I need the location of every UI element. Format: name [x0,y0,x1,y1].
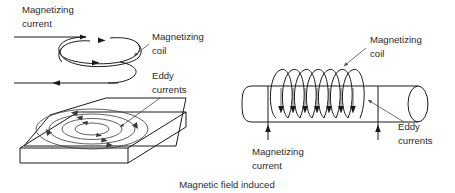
right-magnetizing-coil-label-line2: coil [370,48,384,59]
left-magnetizing-coil-label-line1: Magnetizing [152,31,204,42]
left-magnetizing-coil-label-line2: coil [152,45,166,56]
left-bottom-lead-wire [14,80,118,85]
eddy-current-diagram: Magnetizing current Magnetizing coil Edd… [0,0,455,193]
left-magnetizing-coil [59,37,142,83]
right-eddy-leader-line [368,100,404,122]
left-magnetizing-current-label-line2: current [22,18,52,29]
diagram-canvas: Magnetizing current Magnetizing coil Edd… [0,0,455,193]
right-magnetizing-coil-label-line1: Magnetizing [370,34,422,45]
left-test-plate [20,98,186,163]
left-eddy-current-rings [36,109,148,149]
right-eddy-currents-label-line1: Eddy [398,121,420,132]
left-coil-leader-line [134,44,149,56]
right-magnetizing-current-label-line1: Magnetizing [252,146,304,157]
right-eddy-currents-label-line2: currents [398,135,433,146]
right-magnetizing-current-label-line2: current [252,160,282,171]
figure-caption: Magnetic field induced [179,179,274,190]
left-magnetizing-current-label-line1: Magnetizing [22,4,74,15]
right-coil-leader-line [344,48,366,66]
left-eddy-currents-label-line2: currents [152,84,187,95]
left-eddy-currents-label-line1: Eddy [152,70,174,81]
